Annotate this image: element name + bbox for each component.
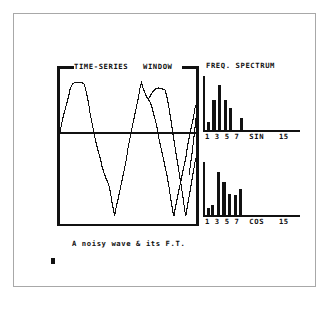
sin-spectrum-y-axis	[203, 76, 205, 131]
bar	[239, 189, 242, 215]
cos-spectrum-bars	[207, 172, 243, 215]
bar	[217, 172, 220, 215]
bar	[222, 182, 225, 215]
screenshot-page: TIME-SERIES WINDOW FREQ. SPECTRUM 1 3 5 …	[0, 0, 335, 309]
bar	[234, 195, 237, 216]
bar	[228, 194, 231, 216]
cos-spectrum-chart	[203, 162, 300, 217]
bar	[240, 118, 243, 130]
sin-spectrum-bars	[207, 85, 243, 130]
bar	[224, 100, 227, 131]
bar	[207, 208, 210, 216]
cos-spectrum-y-axis	[203, 162, 205, 216]
figure-caption: A noisy wave & its F.T.	[72, 240, 185, 247]
freq-spectrum-title: FREQ. SPECTRUM	[206, 62, 275, 69]
bar	[211, 205, 214, 215]
bar	[218, 85, 221, 130]
bar	[207, 122, 210, 130]
time-series-title: TIME-SERIES WINDOW	[74, 63, 173, 70]
cos-spectrum-axis-labels: 1 3 5 7 COS 15	[205, 218, 289, 225]
block-cursor-icon	[51, 258, 55, 264]
bar	[229, 108, 232, 130]
time-series-zero-axis	[57, 132, 199, 134]
sin-spectrum-axis-labels: 1 3 5 7 SIN 15	[205, 133, 289, 140]
bar	[212, 100, 215, 130]
waveform-crest-detail	[148, 88, 196, 216]
sin-spectrum-chart	[203, 76, 300, 132]
